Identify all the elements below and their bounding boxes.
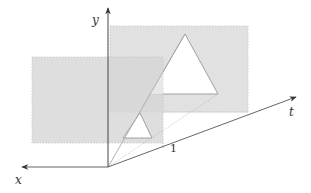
t-axis-label: t xyxy=(289,105,294,119)
y-axis-label: y xyxy=(91,13,99,27)
diagram-canvas: y x t 1 xyxy=(0,0,311,193)
tick-label-one: 1 xyxy=(170,142,177,155)
x-axis-label: x xyxy=(15,173,22,187)
